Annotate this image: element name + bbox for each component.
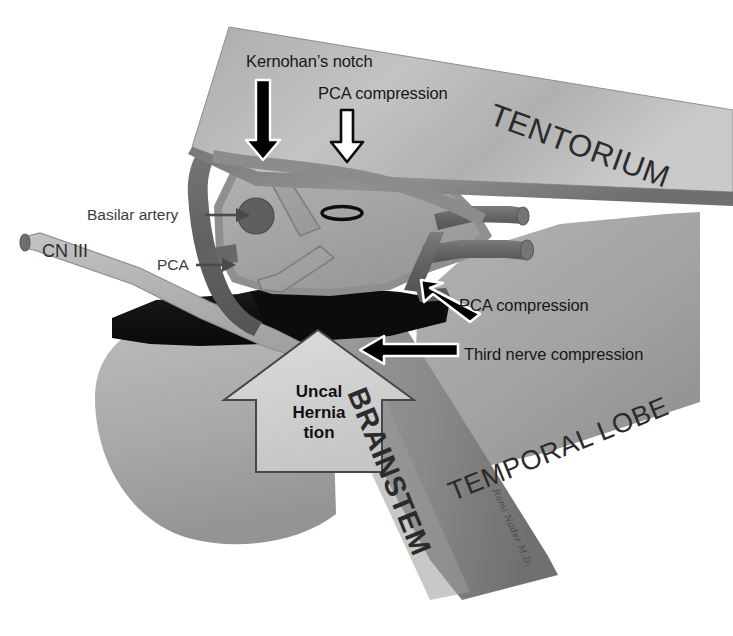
callout-pca-compression-top: PCA compression [318, 84, 448, 103]
pca-right-lower-cut-end [521, 240, 534, 260]
callout-pca: PCA [157, 256, 189, 274]
cn3-cut-end [20, 234, 30, 251]
callout-cn-three: CN III [42, 241, 88, 262]
callout-third-nerve-compression: Third nerve compression [464, 345, 643, 364]
callout-basilar-artery: Basilar artery [87, 206, 178, 224]
uncal-herniation-line-1: Uncal [258, 382, 380, 403]
callout-kernohans-notch: Kernohan’s notch [246, 52, 373, 71]
uncal-herniation-label: Uncal Hernia tion [258, 382, 380, 444]
pca-right-upper-cut-end [517, 207, 529, 225]
diagram-canvas: Kernohan’s notch PCA compression Basilar… [0, 0, 733, 636]
callout-pca-compression-right: PCA compression [459, 296, 589, 315]
uncal-herniation-line-3: tion [258, 423, 380, 444]
uncal-herniation-line-2: Hernia [258, 403, 380, 424]
